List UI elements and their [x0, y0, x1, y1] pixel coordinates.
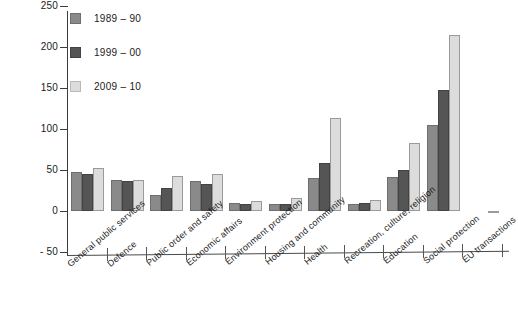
bar [229, 203, 240, 211]
bar [161, 188, 172, 211]
bar [387, 177, 398, 211]
x-axis-tick [502, 244, 503, 257]
bar [190, 181, 201, 211]
bar [269, 204, 280, 211]
y-axis-tick-label: 200 [4, 42, 58, 52]
y-axis-tick [60, 129, 68, 130]
y-axis-tick-label: 250 [4, 1, 58, 11]
bar [150, 195, 161, 211]
bar [308, 178, 319, 211]
y-axis-tick-label: - 50 [4, 247, 58, 257]
bar [240, 204, 251, 211]
bar-group [111, 11, 144, 211]
y-axis-tick-label: 0 [4, 206, 58, 216]
y-axis-tick-label: 150 [4, 83, 58, 93]
y-axis-labels: 250200150100500- 50 [0, 0, 58, 331]
y-axis-tick [60, 211, 68, 212]
bar [488, 211, 499, 213]
bar-group [308, 11, 341, 211]
bar [172, 176, 183, 211]
bar [251, 201, 262, 211]
bar [111, 180, 122, 211]
bar [71, 172, 82, 211]
plot-area [68, 11, 508, 211]
y-axis-tick [60, 47, 68, 48]
bar [370, 200, 381, 211]
bar-group [387, 11, 420, 211]
category-label: Health [303, 242, 330, 266]
y-axis-tick [60, 6, 68, 7]
y-axis-tick [60, 88, 68, 89]
category-label: Education [382, 232, 420, 266]
legend-swatch-icon [70, 81, 81, 92]
y-axis-tick [60, 170, 68, 171]
bar-group [427, 11, 460, 211]
bar-group [190, 11, 223, 211]
legend-swatch-icon [70, 13, 81, 24]
y-axis-tick-label: 100 [4, 124, 58, 134]
legend-label: 2009 – 10 [94, 81, 141, 92]
y-axis-tick [60, 252, 68, 253]
bar-group [150, 11, 183, 211]
bar [82, 174, 93, 211]
bar [449, 35, 460, 211]
bar-group [229, 11, 262, 211]
bar [359, 203, 370, 211]
bar [348, 204, 359, 211]
bar-group [466, 11, 499, 211]
bar-group [71, 11, 104, 211]
legend-swatch-icon [70, 47, 81, 58]
bar-group [269, 11, 302, 211]
legend-label: 1989 – 90 [94, 13, 141, 24]
bar [438, 90, 449, 211]
y-axis-tick-label: 50 [4, 165, 58, 175]
legend-label: 1999 – 00 [94, 47, 141, 58]
bar [93, 168, 104, 211]
bar-group [348, 11, 381, 211]
